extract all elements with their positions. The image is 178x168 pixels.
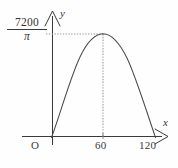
fraction-denominator: π [7, 30, 47, 43]
fraction-numerator: 7200 [7, 16, 47, 28]
x-tick-label-120: 120 [139, 140, 156, 151]
y-max-value-label: 7200 π [7, 16, 47, 43]
origin-label: O [31, 140, 39, 151]
x-tick-label-60: 60 [95, 140, 106, 151]
math-graph-figure: 7200 π y x O 60 120 [0, 0, 178, 168]
x-axis-label: x [163, 117, 168, 128]
y-axis-label: y [60, 8, 65, 19]
